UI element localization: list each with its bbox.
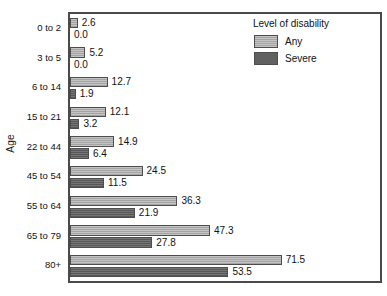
bar-any [70,18,78,29]
bar-severe [70,119,79,130]
bar-severe [70,148,89,159]
bar-any [70,136,114,147]
legend-swatch-severe-icon [254,52,278,65]
legend-label-severe: Severe [285,53,317,64]
y-axis-tick-label: 15 to 21 [0,110,61,121]
bar-severe [70,237,152,248]
bar-value-label: 36.3 [181,196,200,206]
bar-any [70,196,177,207]
legend-title: Level of disability [212,18,362,29]
y-axis-tick-label: 80+ [0,259,61,270]
y-axis-tick-label: 22 to 44 [0,140,61,151]
bar-chart: Age 0 to 23 to 56 to 1415 to 2122 to 444… [0,0,387,296]
y-axis-tick-label: 3 to 5 [0,51,61,62]
bar-any [70,47,85,58]
bar-any [70,77,108,88]
y-axis-tick-label: 0 to 2 [0,21,61,32]
bar-value-label: 11.5 [108,178,127,188]
bar-severe [70,267,228,278]
bar-value-label: 2.6 [82,18,96,28]
y-axis-tick-label: 65 to 79 [0,229,61,240]
bar-any [70,107,106,118]
bar-value-label: 0.0 [74,30,88,40]
legend: Level of disability Any Severe [212,18,362,69]
bar-value-label: 12.7 [112,77,131,87]
bar-value-label: 71.5 [286,255,305,265]
legend-item-severe: Severe [212,52,362,65]
y-axis-tick-label: 55 to 64 [0,199,61,210]
bar-value-label: 21.9 [139,208,158,218]
bar-any [70,255,282,266]
bar-value-label: 47.3 [214,226,233,236]
bar-value-label: 12.1 [110,107,129,117]
bar-value-label: 27.8 [156,238,175,248]
bar-value-label: 0.0 [74,60,88,70]
legend-label-any: Any [285,36,302,47]
bar-value-label: 24.5 [147,166,166,176]
bar-any [70,225,210,236]
bar-any [70,166,143,177]
bar-severe [70,178,104,189]
bar-value-label: 3.2 [83,119,97,129]
y-axis-tick-label: 6 to 14 [0,81,61,92]
legend-swatch-any-icon [254,35,278,48]
bar-value-label: 5.2 [89,48,103,58]
bar-value-label: 6.4 [93,149,107,159]
bar-severe [70,208,135,219]
bar-value-label: 1.9 [80,89,94,99]
legend-item-any: Any [212,35,362,48]
bar-value-label: 14.9 [118,137,137,147]
y-axis-tick-label: 45 to 54 [0,170,61,181]
bar-value-label: 53.5 [232,267,251,277]
bar-severe [70,89,76,100]
y-axis-tick-labels: 0 to 23 to 56 to 1415 to 2122 to 4445 to… [0,12,64,283]
